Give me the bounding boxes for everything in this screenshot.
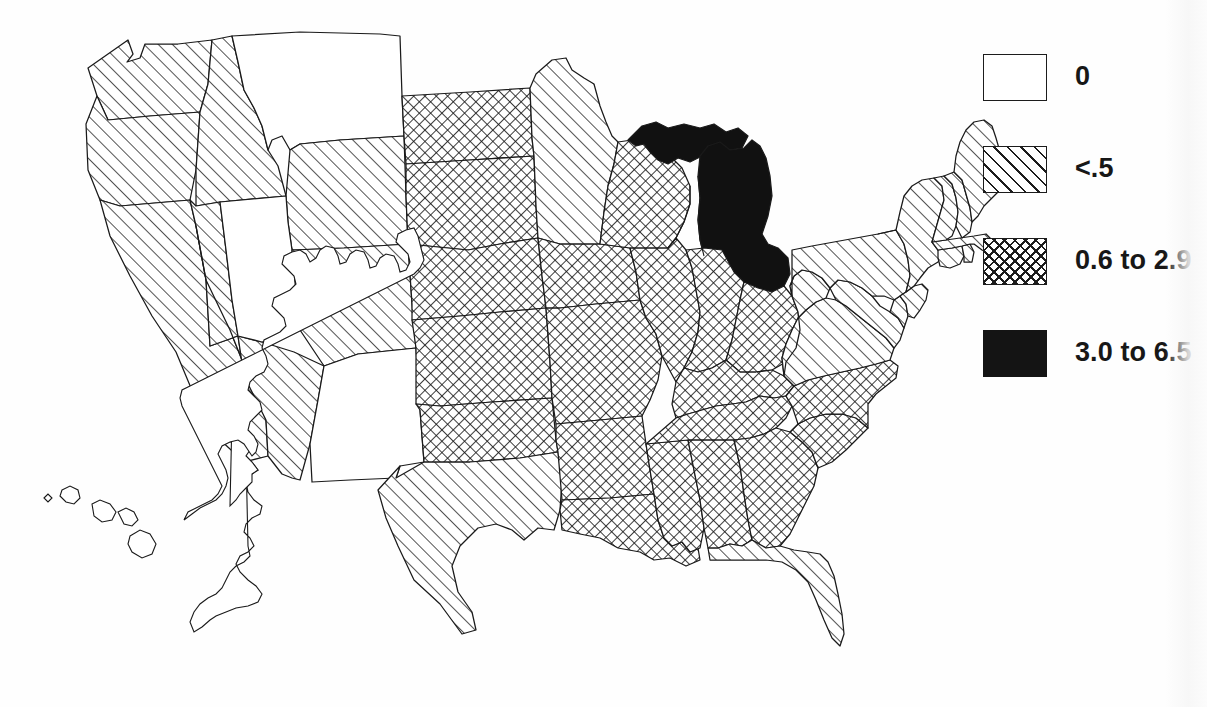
state-hawaii-islands: [44, 486, 156, 558]
legend-label-solid: 3.0 to 6.5: [1075, 335, 1192, 369]
state-new-mexico: [310, 348, 424, 482]
state-missouri: [546, 300, 662, 424]
state-south-dakota: [406, 156, 538, 250]
map-figure: 0 <.5 0.6 to 2.9 3.0 to 6.5: [0, 0, 1207, 707]
state-arkansas: [556, 416, 654, 500]
state-texas: [378, 452, 562, 634]
legend-item-0: 0: [983, 54, 1203, 146]
state-north-dakota: [402, 88, 534, 164]
state-iowa: [538, 238, 640, 308]
legend-label-crosshatch: 0.6 to 2.9: [1075, 243, 1192, 277]
state-oklahoma: [416, 398, 558, 462]
legend: 0 <.5 0.6 to 2.9 3.0 to 6.5: [983, 54, 1203, 422]
legend-item-3: 3.0 to 6.5: [983, 330, 1203, 422]
state-washington: [88, 40, 212, 120]
legend-label-hatch: <.5: [1075, 151, 1114, 185]
state-nebraska: [408, 238, 546, 320]
state-kansas: [412, 308, 552, 406]
legend-swatch-crosshatch: [983, 238, 1047, 285]
legend-label-none: 0: [1075, 59, 1090, 93]
state-florida: [708, 540, 844, 646]
legend-swatch-none: [983, 54, 1047, 101]
state-wyoming: [286, 136, 408, 250]
legend-item-2: 0.6 to 2.9: [983, 238, 1203, 330]
legend-swatch-hatch: [983, 146, 1047, 193]
legend-item-1: <.5: [983, 146, 1203, 238]
legend-swatch-solid: [983, 330, 1047, 377]
state-rhode-island: [962, 244, 974, 262]
